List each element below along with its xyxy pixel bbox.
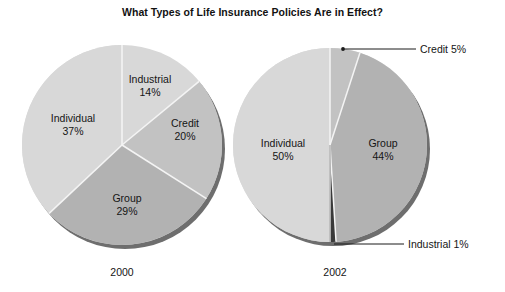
pie-2002-label-individual: Individual 50% xyxy=(243,137,323,162)
pie-2000-label-individual-pct: 37% xyxy=(33,125,113,138)
pie-2000-label-industrial-name: Industrial xyxy=(129,73,172,85)
pie-2000-label-credit-name: Credit xyxy=(171,117,199,129)
pie-2002-callout-credit: Credit 5% xyxy=(420,43,466,55)
pie-2000-label-credit: Credit 20% xyxy=(153,117,217,142)
pie-2002-label-group-name: Group xyxy=(368,137,397,149)
pie-2000-label-group-name: Group xyxy=(112,192,141,204)
pie-2002-label-individual-name: Individual xyxy=(261,137,305,149)
pie-2000-label-individual-name: Individual xyxy=(51,112,95,124)
pie-2000-label-credit-pct: 20% xyxy=(153,130,217,143)
pie-2002-label-group: Group 44% xyxy=(351,137,415,162)
pie-2002-label-group-pct: 44% xyxy=(351,150,415,163)
pie-2000-label-individual: Individual 37% xyxy=(33,112,113,137)
credit-callout-dot xyxy=(341,47,345,51)
chart-container: What Types of Life Insurance Policies Ar… xyxy=(0,0,505,292)
year-label-2002: 2002 xyxy=(305,266,365,278)
pie-2000-label-industrial-pct: 14% xyxy=(110,86,190,99)
year-label-2000: 2000 xyxy=(92,266,152,278)
pie-2000-label-group: Group 29% xyxy=(95,192,159,217)
pie-2000-label-group-pct: 29% xyxy=(95,205,159,218)
pie-2002-label-individual-pct: 50% xyxy=(243,150,323,163)
pie-2000-label-industrial: Industrial 14% xyxy=(110,73,190,98)
pie-2002-callout-industrial: Industrial 1% xyxy=(408,238,469,250)
